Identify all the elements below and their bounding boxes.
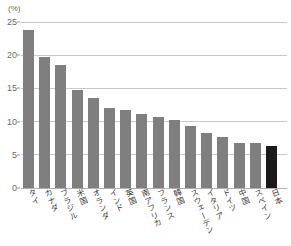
y-tick-mark-5 bbox=[17, 154, 20, 155]
bar-日本 bbox=[266, 146, 277, 188]
bar-スウェーデン bbox=[185, 126, 196, 188]
y-axis-tick-labels: 0510152025 bbox=[0, 22, 17, 188]
bars-layer bbox=[21, 22, 287, 188]
bar-インド bbox=[104, 108, 115, 188]
x-label-中国: 中国 bbox=[235, 188, 249, 206]
x-label-日本: 日本 bbox=[268, 188, 282, 206]
x-label-韓国: 韓国 bbox=[171, 188, 185, 206]
bar-スペイン bbox=[250, 143, 261, 188]
y-tick-label-15: 15 bbox=[7, 83, 17, 93]
x-label-英国: 英国 bbox=[122, 188, 136, 206]
x-label-タイ: タイ bbox=[25, 188, 39, 206]
bar-南アフリカ bbox=[136, 114, 147, 188]
y-tick-mark-10 bbox=[17, 121, 20, 122]
y-tick-label-10: 10 bbox=[7, 117, 17, 127]
y-tick-mark-15 bbox=[17, 88, 20, 89]
bar-ドイツ bbox=[217, 137, 228, 188]
bar-韓国 bbox=[169, 120, 180, 188]
y-tick-mark-0 bbox=[17, 188, 20, 189]
bar-中国 bbox=[234, 143, 245, 188]
bar-タイ bbox=[23, 30, 34, 188]
y-axis-unit-label: (%) bbox=[8, 4, 20, 13]
y-tick-mark-20 bbox=[17, 55, 20, 56]
bar-ブラジル bbox=[55, 65, 66, 189]
plot-area bbox=[21, 22, 287, 188]
bar-イタリア bbox=[201, 133, 212, 188]
bar-フランス bbox=[153, 117, 164, 188]
bar-オランダ bbox=[88, 98, 99, 188]
y-tick-label-25: 25 bbox=[7, 17, 17, 27]
x-label-カナダ: カナダ bbox=[41, 188, 58, 213]
y-tick-mark-25 bbox=[17, 22, 20, 23]
bar-米国 bbox=[72, 90, 83, 188]
y-tick-label-20: 20 bbox=[7, 50, 17, 60]
x-axis-category-labels: タイカナダブラジル米国オランダインド英国南アフリカフランス韓国スウェーデンイタリ… bbox=[21, 190, 287, 246]
bar-英国 bbox=[120, 110, 131, 188]
x-label-ドイツ: ドイツ bbox=[219, 188, 236, 213]
bar-chart: (%) 0510152025 タイカナダブラジル米国オランダインド英国南アフリカ… bbox=[0, 0, 291, 246]
x-label-インド: インド bbox=[106, 188, 123, 213]
x-label-米国: 米国 bbox=[73, 188, 87, 206]
bar-カナダ bbox=[39, 57, 50, 188]
